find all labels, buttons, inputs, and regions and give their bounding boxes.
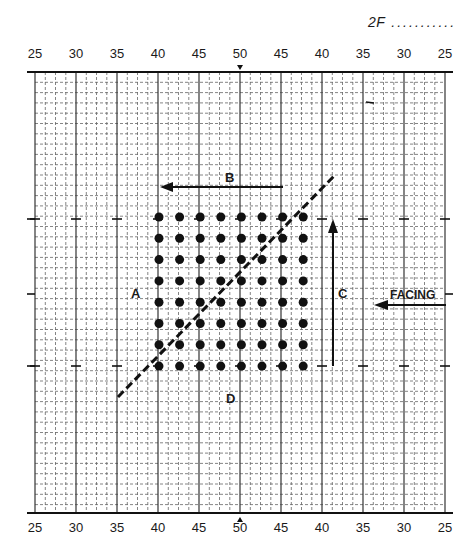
formation-dots	[155, 213, 308, 371]
formation-dot	[278, 213, 287, 222]
formation-dot	[237, 340, 246, 349]
yard-label-bottom: 25	[438, 520, 452, 535]
formation-dot	[258, 340, 267, 349]
yard-label-top: 30	[397, 46, 411, 61]
formation-dot	[196, 319, 205, 328]
marching-field-grid: 2530354045504540353025 25303540455045403…	[0, 0, 476, 552]
formation-dot	[216, 362, 225, 371]
formation-dot	[258, 213, 267, 222]
label-d: D	[226, 391, 235, 406]
formation-dot	[155, 213, 164, 222]
formation-dot	[278, 255, 287, 264]
facing-label: FACING	[390, 288, 435, 302]
yard-label-bottom: 40	[151, 520, 165, 535]
formation-dot	[278, 319, 287, 328]
formation-dot	[299, 319, 308, 328]
yard-label-top: 40	[315, 46, 329, 61]
formation-dot	[299, 213, 308, 222]
formation-dot	[175, 213, 184, 222]
formation-dot	[216, 319, 225, 328]
yard-label-top: 50	[233, 46, 247, 61]
formation-dot	[196, 298, 205, 307]
formation-dot	[237, 298, 246, 307]
formation-dot	[196, 213, 205, 222]
formation-dot	[299, 276, 308, 285]
yard-label-top: 30	[69, 46, 83, 61]
formation-dot	[299, 234, 308, 243]
formation-dot	[299, 298, 308, 307]
formation-dot	[216, 213, 225, 222]
formation-dot	[175, 362, 184, 371]
formation-dot	[258, 362, 267, 371]
formation-dot	[258, 234, 267, 243]
yard-label-bottom: 50	[233, 520, 247, 535]
yard-label-bottom: 45	[192, 520, 206, 535]
formation-dot	[237, 319, 246, 328]
formation-dot	[175, 319, 184, 328]
label-b: B	[225, 170, 234, 185]
yard-label-bottom: 35	[356, 520, 370, 535]
formation-dot	[237, 213, 246, 222]
formation-dot	[299, 340, 308, 349]
formation-dot	[278, 298, 287, 307]
yard-label-top: 40	[151, 46, 165, 61]
yard-label-bottom: 40	[315, 520, 329, 535]
formation-dot	[155, 298, 164, 307]
formation-dot	[196, 340, 205, 349]
formation-dot	[175, 298, 184, 307]
formation-dot	[278, 234, 287, 243]
formation-dot	[196, 362, 205, 371]
formation-dot	[216, 298, 225, 307]
formation-dot	[278, 276, 287, 285]
yard-labels-top: 2530354045504540353025	[28, 46, 452, 70]
formation-dot	[196, 255, 205, 264]
formation-dot	[237, 276, 246, 285]
formation-dot	[216, 276, 225, 285]
formation-dot	[155, 255, 164, 264]
formation-dot	[258, 276, 267, 285]
formation-dot	[155, 276, 164, 285]
formation-dot	[258, 298, 267, 307]
formation-dot	[175, 276, 184, 285]
formation-dot	[237, 362, 246, 371]
yard-label-top: 35	[356, 46, 370, 61]
label-c: C	[338, 286, 348, 301]
yard-label-bottom: 30	[69, 520, 83, 535]
stray-mark	[366, 102, 374, 103]
formation-dot	[237, 255, 246, 264]
formation-dot	[216, 340, 225, 349]
yard-label-top: 35	[110, 46, 124, 61]
formation-dot	[155, 340, 164, 349]
formation-dot	[175, 234, 184, 243]
yard-label-bottom: 30	[397, 520, 411, 535]
formation-dot	[216, 255, 225, 264]
formation-dot	[299, 255, 308, 264]
formation-dot	[258, 319, 267, 328]
arrow-c	[328, 219, 338, 366]
formation-dot	[196, 276, 205, 285]
arrow-c-head-icon	[328, 219, 338, 233]
formation-dot	[155, 234, 164, 243]
label-a: A	[131, 286, 141, 301]
formation-dot	[196, 234, 205, 243]
yard-label-top: 25	[438, 46, 452, 61]
yard-label-bottom: 45	[274, 520, 288, 535]
formation-dot	[155, 362, 164, 371]
arrow-b-head-icon	[160, 182, 173, 192]
yard-labels-bottom: 2530354045504540353025	[28, 517, 452, 535]
yard-label-bottom: 35	[110, 520, 124, 535]
formation-dot	[299, 362, 308, 371]
yard-label-top: 25	[28, 46, 42, 61]
yard-label-top: 45	[274, 46, 288, 61]
formation-dot	[278, 340, 287, 349]
formation-dot	[258, 255, 267, 264]
formation-dot	[278, 362, 287, 371]
formation-dot	[155, 319, 164, 328]
formation-dot	[175, 340, 184, 349]
center-marker-top-icon	[237, 65, 243, 70]
formation-dot	[237, 234, 246, 243]
yard-label-top: 45	[192, 46, 206, 61]
formation-dot	[175, 255, 184, 264]
formation-dot	[216, 234, 225, 243]
yard-label-bottom: 25	[28, 520, 42, 535]
